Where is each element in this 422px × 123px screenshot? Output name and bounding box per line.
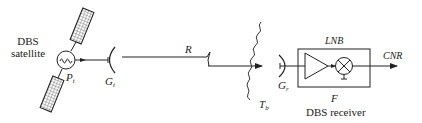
noise-temperature-label: Tb [259, 99, 269, 112]
satellite-label: DBS satellite [9, 36, 47, 59]
satellite-label-line1: DBS [9, 36, 47, 47]
propagation-path [122, 52, 262, 66]
noise-boundary-wave [247, 22, 261, 100]
cnr-output-label: CNR [383, 51, 402, 61]
receiver-label: DBS receiver [306, 107, 366, 118]
diagram-graphics [0, 0, 422, 123]
solar-panel-lower-icon [40, 76, 64, 112]
range-label: R [185, 44, 192, 55]
lnb-label: LNB [325, 36, 343, 46]
transmit-power-label: Pt [66, 72, 75, 85]
satellite-label-line2: satellite [9, 48, 47, 59]
noise-figure-label: F [331, 93, 338, 104]
receive-dish-icon [279, 55, 306, 77]
receive-gain-label: Gr [278, 80, 289, 93]
mixer-icon [336, 58, 353, 80]
transmit-dish-icon [108, 47, 115, 73]
dbs-link-diagram: DBS satellite Pt Gt R Tb Gr LNB F DBS re… [0, 0, 422, 123]
amplifier-icon [305, 53, 328, 79]
transmit-gain-label: Gt [105, 76, 115, 89]
solar-panel-upper-icon [70, 8, 94, 44]
